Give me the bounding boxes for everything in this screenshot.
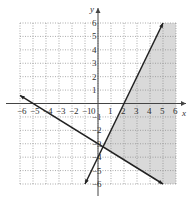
y-tick-label: 4: [92, 45, 97, 55]
x-tick-label: −4: [43, 106, 53, 116]
y-tick-label: −1: [92, 112, 102, 122]
x-tick-label: −6: [17, 106, 27, 116]
y-tick-label: −4: [92, 152, 102, 162]
x-tick-label: 5: [160, 106, 165, 116]
x-tick-label: 2: [121, 106, 126, 116]
y-tick-label: −3: [92, 139, 102, 149]
y-tick-label: −5: [92, 166, 102, 176]
y-tick-label: 2: [92, 72, 97, 82]
y-tick-label: 6: [92, 18, 97, 28]
x-tick-label: 4: [147, 106, 152, 116]
x-tick-label: −5: [30, 106, 40, 116]
x-axis-label: x: [181, 108, 186, 118]
x-tick-label: 3: [134, 106, 139, 116]
x-tick-label: 6: [173, 106, 178, 116]
x-tick-label: −3: [56, 106, 66, 116]
y-tick-label: 3: [92, 58, 97, 68]
x-axis-arrow-icon: [181, 101, 186, 106]
x-tick-label: −2: [69, 106, 79, 116]
y-tick-label: −2: [92, 125, 102, 135]
y-tick-label: 1: [92, 85, 97, 95]
y-tick-label: −6: [92, 179, 102, 189]
y-axis-label: y: [89, 4, 94, 14]
x-tick-label: 1: [108, 106, 113, 116]
y-tick-label: 5: [92, 31, 97, 41]
inequality-graph: xy −6−5−4−3−2−10123456654321−1−2−3−4−5−6: [0, 0, 192, 201]
y-axis-arrow-icon: [96, 8, 101, 13]
